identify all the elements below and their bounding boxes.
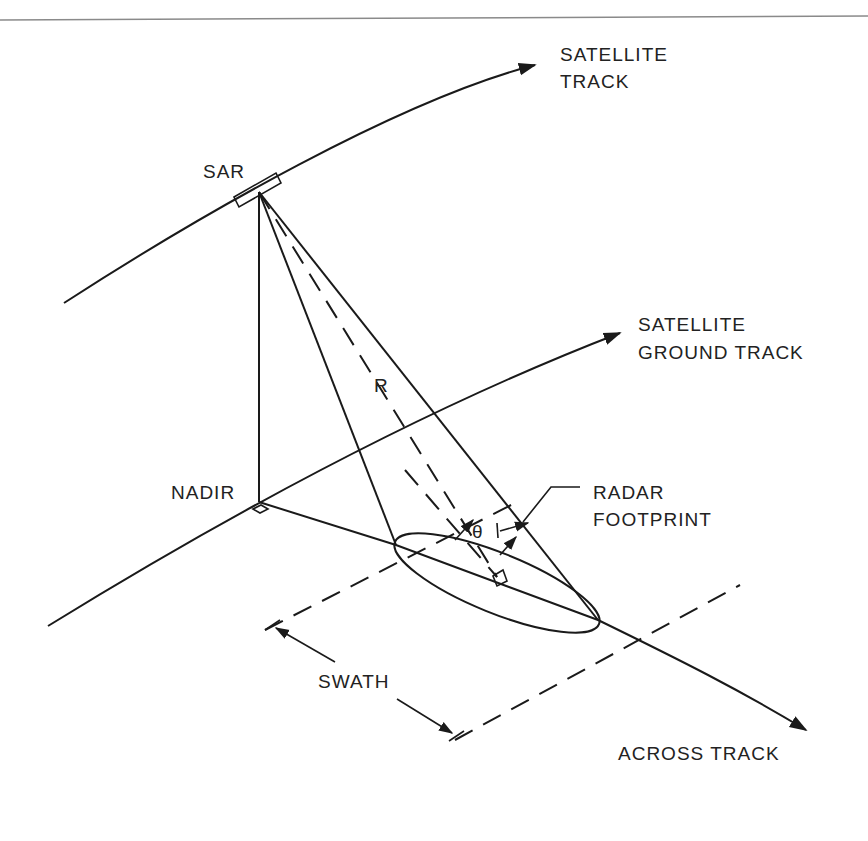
- range-label: R: [374, 375, 389, 396]
- swath-arrow-left: [276, 628, 335, 662]
- swath-arrow-right: [397, 699, 452, 733]
- beam-far-edge: [259, 192, 598, 620]
- satellite-track-curve: [64, 65, 535, 303]
- ground-track-label-line1: SATELLITE: [638, 314, 746, 335]
- theta-arrow-2: [500, 537, 516, 555]
- swath-label: SWATH: [318, 671, 390, 692]
- ground-track-label-line2: GROUND TRACK: [638, 342, 804, 363]
- satellite-track-label-line2: TRACK: [560, 71, 629, 92]
- top-rule: [0, 16, 868, 20]
- sar-geometry-diagram: SATELLITE TRACK SAR SATELLITE GROUND TRA…: [0, 0, 868, 841]
- sar-label: SAR: [203, 161, 245, 182]
- ground-track-curve: [48, 333, 620, 626]
- swath-boundary-far: [455, 585, 740, 740]
- theta-label: θ: [472, 521, 484, 542]
- satellite-track-label-line1: SATELLITE: [560, 44, 668, 65]
- across-track-label: ACROSS TRACK: [618, 743, 780, 764]
- footprint-label-line1: RADAR: [593, 482, 665, 503]
- theta-tick: [497, 523, 498, 538]
- footprint-leader-line: [523, 487, 580, 522]
- nadir-label: NADIR: [171, 482, 235, 503]
- footprint-label-line2: FOOTPRINT: [593, 509, 712, 530]
